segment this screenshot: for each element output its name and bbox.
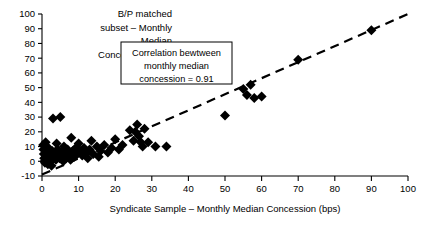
y-tick-label: 30 — [24, 111, 35, 122]
data-point — [48, 114, 58, 124]
x-tick-label: 30 — [147, 183, 158, 194]
y-tick-label: 40 — [24, 97, 35, 108]
annotation-line: monthly median — [144, 61, 209, 71]
x-axis-title: Syndicate Sample – Monthly Median Conces… — [110, 203, 341, 214]
correlation-annotation: Correlation bewtweenmonthly medianconces… — [121, 42, 232, 84]
x-tick-label: 70 — [293, 183, 304, 194]
y-tick-label: 50 — [24, 82, 35, 93]
y-tick-label: 0 — [30, 156, 35, 167]
data-point — [366, 25, 376, 35]
annotation-line: Correlation bewtween — [132, 48, 221, 58]
x-tick-label: 60 — [256, 183, 267, 194]
y-axis-title-line: subset – Monthly — [100, 22, 172, 33]
annotation-line: concession = 0.91 — [139, 74, 213, 84]
x-tick-label: 0 — [39, 183, 44, 194]
data-point — [66, 133, 76, 143]
x-tick-label: 20 — [110, 183, 121, 194]
y-axis-title-line: B/P matched — [118, 8, 172, 19]
y-tick-label: 20 — [24, 126, 35, 137]
x-tick-label: 100 — [400, 183, 416, 194]
data-point — [220, 111, 230, 121]
data-point — [55, 112, 65, 122]
x-tick-label: 90 — [366, 183, 377, 194]
y-tick-label: 10 — [24, 141, 35, 152]
x-tick-label: 80 — [330, 183, 341, 194]
data-point — [257, 91, 267, 101]
x-tick-label: 10 — [73, 183, 84, 194]
scatter-chart: -100102030405060708090100 01020304050607… — [0, 0, 421, 227]
chart-canvas: -100102030405060708090100 01020304050607… — [0, 0, 421, 227]
x-tick-label: 50 — [220, 183, 231, 194]
y-tick-label: 80 — [24, 38, 35, 49]
y-tick-label: 100 — [19, 8, 35, 19]
y-tick-label: 70 — [24, 53, 35, 64]
x-axis: 0102030405060708090100 — [39, 176, 416, 194]
data-point — [110, 134, 120, 144]
y-tick-label: 60 — [24, 67, 35, 78]
y-tick-label: -10 — [21, 170, 35, 181]
x-tick-label: 40 — [183, 183, 194, 194]
y-axis: -100102030405060708090100 — [19, 8, 42, 181]
data-point — [161, 142, 171, 152]
y-tick-label: 90 — [24, 23, 35, 34]
x-axis-title-text: Syndicate Sample – Monthly Median Conces… — [110, 203, 341, 214]
